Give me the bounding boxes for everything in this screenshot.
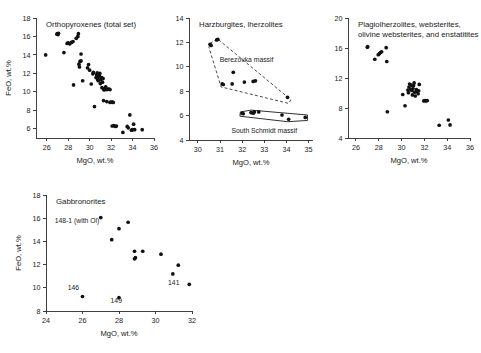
data-point [243,80,247,84]
panel-plagiolherzolites: 48121620262830323436MgO, wt.%Plagiolherz… [335,14,479,165]
y-tick-label: 10 [23,87,31,96]
x-tick-label: 36 [466,143,474,152]
x-axis-title: MgO, wt.% [390,156,427,165]
x-axis-title: MgO, wt.% [232,158,269,167]
x-tick-label: 28 [375,143,383,152]
data-point [446,118,450,122]
annotation-label: 148-1 (with Ol) [55,217,100,225]
y-tick-label: 14 [176,14,184,23]
data-point [287,117,291,121]
data-point [44,53,48,57]
x-tick-label: 26 [352,143,360,152]
y-tick-label: 8 [180,87,184,96]
x-tick-label: 32 [238,145,246,154]
data-point [81,79,85,83]
data-point [417,89,421,93]
y-tick-label: 12 [176,38,184,47]
data-point [385,60,389,64]
data-point [380,50,384,54]
y-tick-label: 16 [33,214,41,223]
data-point [117,227,121,231]
y-tick-label: 18 [23,14,31,23]
y-tick-label: 4 [339,134,343,143]
panel-title: Harzburgites, lherzolites [199,20,283,29]
panel-gabbronorites: 810121416182426283032MgO, wt.%FeO, wt.%G… [14,191,196,338]
panel-orthopyroxenes: 681012141618262830323436MgO, wt.%FeO, wt… [4,14,158,165]
data-point [126,126,130,130]
data-point [257,110,261,114]
data-point [99,216,103,220]
figure-container: 681012141618262830323436MgO, wt.%FeO, wt… [0,0,481,353]
data-point [126,220,130,224]
x-tick-label: 32 [420,143,428,152]
data-point [71,40,75,44]
data-point [221,83,225,87]
x-tick-label: 30 [86,143,94,152]
x-tick-label: 30 [194,145,202,154]
data-point [98,72,102,76]
data-point [102,99,106,103]
panel-title-line2: olivine websterites, and enstatitites [358,30,479,39]
data-point [254,79,258,83]
y-tick-label: 20 [335,14,343,23]
data-point [241,112,245,116]
panel-title: Orthopyroxenes (total set) [46,20,137,29]
data-point [417,83,421,87]
y-tick-label: 18 [33,191,41,200]
x-axis-title: MgO, wt.% [76,156,113,165]
x-tick-label: 24 [42,316,50,325]
data-point [448,123,452,127]
data-point [385,110,389,114]
y-tick-label: 16 [335,44,343,53]
data-point [117,296,121,300]
data-point [57,31,61,35]
data-point [88,68,92,72]
data-point [216,38,220,42]
y-tick-label: 10 [33,283,41,292]
data-point [280,113,284,117]
y-tick-label: 8 [37,307,41,316]
data-point [425,99,429,103]
data-point [187,282,191,286]
data-point [89,82,93,86]
data-point [407,91,411,95]
y-tick-label: 14 [23,51,31,60]
y-tick-label: 12 [335,74,343,83]
data-point [87,63,91,67]
multi-panel-scatter-figure: 681012141618262830323436MgO, wt.%FeO, wt… [0,0,481,353]
annotation-label: South Schmidt massif [231,127,297,134]
data-point [92,71,96,75]
data-point [111,101,115,105]
data-point [108,88,112,92]
data-point [373,57,377,61]
data-point [208,42,212,46]
data-point [286,95,290,99]
data-point [132,122,136,126]
data-point [230,82,234,86]
x-tick-label: 34 [443,143,451,152]
x-tick-label: 26 [43,143,51,152]
data-point [128,113,132,117]
panel-harzburgites-lherzolites: 468101214303132333435MgO, wt.%Harzburgit… [176,14,314,167]
x-tick-label: 35 [305,145,313,154]
x-tick-label: 32 [107,143,115,152]
x-tick-label: 32 [188,316,196,325]
annotation-label: 146 [68,284,80,291]
y-tick-label: 10 [176,62,184,71]
data-point [134,256,138,260]
data-point [437,123,441,127]
x-tick-label: 30 [398,143,406,152]
data-point [110,238,114,242]
data-point [72,83,76,87]
data-point [403,104,407,108]
data-point [231,70,235,74]
data-point [401,93,405,97]
x-tick-label: 33 [260,145,268,154]
data-point [101,80,105,84]
panel-title: Plagiolherzolites, websterites, [358,20,461,29]
data-point [101,77,105,81]
panel-title: Gabbronorites [56,197,106,206]
data-point [412,81,416,85]
annotation-label: 141 [168,279,180,286]
data-point [140,128,144,132]
